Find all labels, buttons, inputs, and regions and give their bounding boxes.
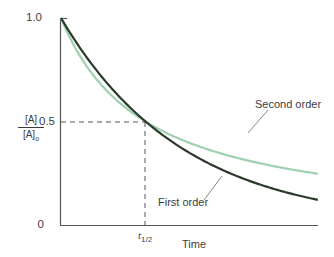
y-label-numerator: [A] (18, 114, 44, 128)
y-tick-label-0: 0 (22, 218, 44, 230)
y-label-den-text: [A] (23, 129, 35, 140)
y-label-den-sub: o (35, 135, 39, 142)
y-axis-label: [A] [A]o (18, 114, 44, 145)
second-order-curve (61, 18, 318, 174)
y-tick-label-1: 1.0 (20, 11, 42, 23)
first-order-label: First order (158, 196, 208, 208)
x-axis-label: Time (182, 238, 206, 250)
t-subscript: 1/2 (141, 235, 152, 244)
chart-canvas (0, 0, 334, 257)
y-label-denominator: [A]o (18, 128, 44, 145)
x-tick-half-life: t1/2 (138, 229, 152, 244)
second-order-leader (248, 110, 268, 133)
second-order-label: Second order (255, 98, 321, 110)
